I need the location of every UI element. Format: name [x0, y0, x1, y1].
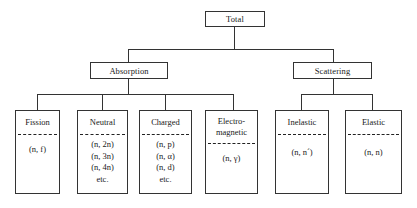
node-elastic[interactable]: Elastic (n, n) — [345, 110, 402, 194]
connector-absorption-bus — [37, 94, 234, 95]
reaction-item: (n, 2n) — [78, 139, 127, 151]
node-scattering[interactable]: Scattering — [293, 62, 372, 79]
node-inelastic-divider — [278, 134, 326, 135]
connector-bus-to-charged — [165, 94, 166, 110]
node-total[interactable]: Total — [205, 11, 265, 27]
node-inelastic-label: Inelastic — [276, 117, 328, 128]
node-electromagnetic-label: Electro- magnetic — [206, 116, 257, 137]
connector-bus-to-neutral — [102, 94, 103, 110]
connector-tier1-bus — [128, 49, 334, 50]
node-neutral-divider — [80, 134, 125, 135]
reaction-item: (n, 4n) — [78, 162, 127, 174]
node-fission-label: Fission — [16, 117, 59, 128]
reaction-item: (n, α) — [140, 151, 191, 163]
node-electromagnetic-items: (n, γ) — [206, 153, 257, 165]
reaction-item: (n, p) — [140, 139, 191, 151]
node-absorption-label: Absorption — [91, 66, 167, 76]
node-charged-divider — [142, 134, 189, 135]
flowchart-diagram: Total Absorption Scattering Fission (n, … — [0, 0, 417, 208]
node-scattering-label: Scattering — [294, 66, 371, 76]
reaction-item: (n, 3n) — [78, 151, 127, 163]
connector-scattering-down — [333, 79, 334, 94]
connector-total-down — [234, 27, 235, 49]
connector-bus-to-absorption — [128, 49, 129, 62]
reaction-item: (n, n) — [346, 147, 401, 159]
reaction-item: (n, γ) — [206, 153, 257, 165]
node-inelastic[interactable]: Inelastic (n, n´) — [275, 110, 329, 194]
node-neutral[interactable]: Neutral (n, 2n) (n, 3n) (n, 4n) etc. — [77, 110, 128, 194]
connector-absorption-down — [128, 79, 129, 94]
reaction-item: (n, d) — [140, 162, 191, 174]
reaction-item: (n, n´) — [276, 147, 328, 159]
connector-scattering-bus — [301, 94, 373, 95]
node-charged[interactable]: Charged (n, p) (n, α) (n, d) etc. — [139, 110, 192, 194]
connector-bus-to-scattering — [333, 49, 334, 62]
connector-bus-to-electromagnetic — [233, 94, 234, 110]
node-charged-label: Charged — [140, 117, 191, 128]
node-neutral-items: (n, 2n) (n, 3n) (n, 4n) etc. — [78, 139, 127, 185]
node-fission-divider — [18, 134, 57, 135]
connector-bus-to-fission — [37, 94, 38, 110]
node-absorption[interactable]: Absorption — [90, 62, 168, 79]
node-elastic-items: (n, n) — [346, 147, 401, 159]
reaction-item: (n, f) — [16, 144, 59, 156]
node-neutral-label: Neutral — [78, 117, 127, 128]
node-fission[interactable]: Fission (n, f) — [15, 110, 60, 194]
node-fission-items: (n, f) — [16, 144, 59, 156]
node-charged-items: (n, p) (n, α) (n, d) etc. — [140, 139, 191, 185]
node-inelastic-items: (n, n´) — [276, 147, 328, 159]
connector-bus-to-inelastic — [301, 94, 302, 110]
node-total-label: Total — [206, 14, 264, 24]
node-electromagnetic[interactable]: Electro- magnetic (n, γ) — [205, 110, 258, 194]
connector-bus-to-elastic — [372, 94, 373, 110]
node-elastic-divider — [348, 134, 399, 135]
node-electromagnetic-divider — [208, 143, 255, 144]
reaction-item: etc. — [140, 174, 191, 186]
reaction-item: etc. — [78, 174, 127, 186]
node-elastic-label: Elastic — [346, 117, 401, 128]
